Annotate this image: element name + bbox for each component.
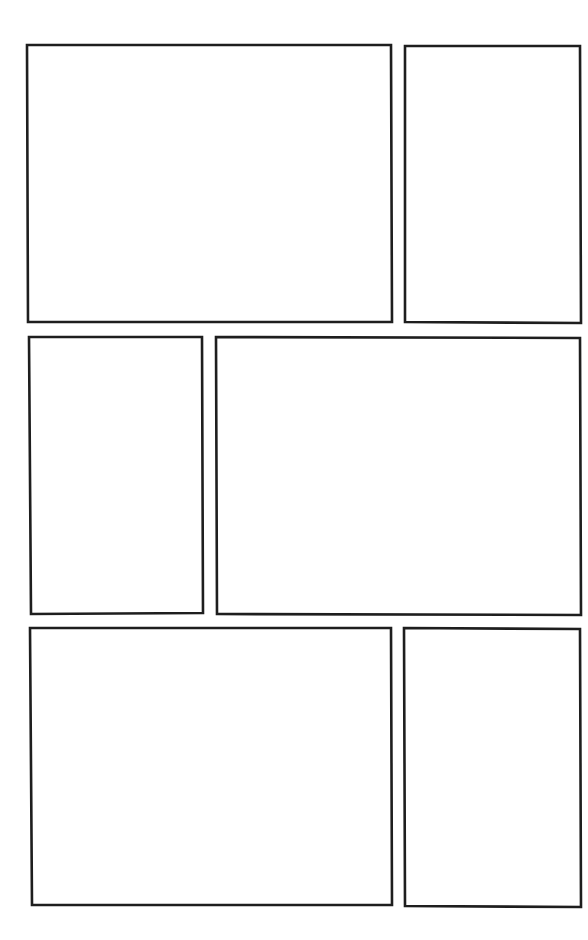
panel-5[interactable] bbox=[30, 628, 392, 905]
comic-page bbox=[0, 0, 588, 940]
panel-4[interactable] bbox=[216, 337, 581, 615]
panel-1[interactable] bbox=[27, 45, 392, 322]
panel-3[interactable] bbox=[29, 337, 203, 614]
panel-6[interactable] bbox=[404, 628, 581, 907]
panel-2[interactable] bbox=[405, 46, 581, 323]
panel-layout bbox=[0, 0, 588, 940]
